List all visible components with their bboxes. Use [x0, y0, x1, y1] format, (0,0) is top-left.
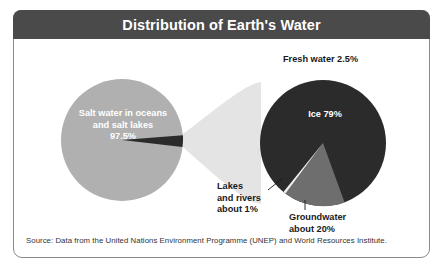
ice-label: Ice 79%	[290, 109, 360, 121]
page-title: Distribution of Earth's Water	[122, 17, 320, 33]
salt-water-label: Salt water in oceans and salt lakes 97.5…	[62, 108, 184, 143]
figure-title-bar: Distribution of Earth's Water	[13, 10, 430, 39]
source-note: Source: Data from the United Nations Env…	[26, 236, 387, 245]
fresh-water-label: Fresh water 2.5%	[283, 54, 358, 66]
figure-container: Distribution of Earth's Water Salt water…	[0, 0, 443, 277]
lakes-rivers-label: Lakes and rivers about 1%	[217, 181, 261, 216]
groundwater-label: Groundwater about 20%	[289, 212, 346, 235]
